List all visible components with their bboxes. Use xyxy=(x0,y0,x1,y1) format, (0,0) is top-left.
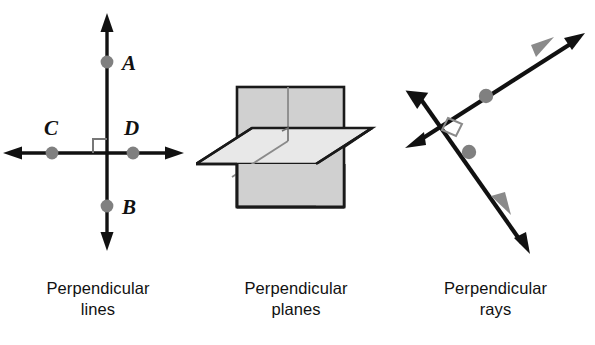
caption-rays-line1: Perpendicular xyxy=(396,278,595,299)
point-d-label: D xyxy=(123,116,139,140)
horizontal-line-arrow-left-icon xyxy=(3,147,22,160)
steep-line-group xyxy=(406,81,530,254)
ray-point-lower-dot xyxy=(462,145,476,159)
ray-arrow-upper-right-icon xyxy=(531,37,554,57)
caption-perpendicular-lines: Perpendicular lines xyxy=(0,278,196,320)
caption-planes-line1: Perpendicular xyxy=(196,278,396,299)
perpendicular-planes-diagram xyxy=(196,0,396,270)
point-a-dot xyxy=(101,56,114,69)
perpendicular-rays-diagram xyxy=(396,0,595,270)
vertical-line-arrow-down-icon xyxy=(101,232,114,251)
point-b-dot xyxy=(101,200,114,213)
caption-lines-line2: lines xyxy=(0,299,196,320)
perpendicular-figures-board: A B C D Perpendicular lines xyxy=(0,0,595,345)
ray-point-upper-dot xyxy=(479,89,493,103)
point-d-dot xyxy=(127,147,140,160)
shallow-line-group xyxy=(405,33,585,148)
point-c-label: C xyxy=(44,116,59,140)
shallow-line-arrow-left-icon xyxy=(405,132,426,148)
panel-perpendicular-lines: A B C D Perpendicular lines xyxy=(0,0,196,345)
horizontal-line-arrow-right-icon xyxy=(165,147,184,160)
perpendicular-lines-diagram: A B C D xyxy=(0,0,196,270)
vertical-plane-front-lower-fill xyxy=(237,164,316,207)
caption-perpendicular-planes: Perpendicular planes xyxy=(196,278,396,320)
caption-planes-line2: planes xyxy=(196,299,396,320)
vertical-plane-front-right-fill xyxy=(316,164,344,207)
point-c-dot xyxy=(46,147,59,160)
panel-perpendicular-planes: Perpendicular planes xyxy=(196,0,396,345)
steep-line xyxy=(420,98,522,243)
point-a-label: A xyxy=(120,51,136,75)
shallow-line xyxy=(420,43,572,140)
caption-perpendicular-rays: Perpendicular rays xyxy=(396,278,595,320)
right-angle-marker xyxy=(93,139,107,153)
vertical-line-arrow-up-icon xyxy=(101,13,114,32)
caption-rays-line2: rays xyxy=(396,299,595,320)
panel-perpendicular-rays: Perpendicular rays xyxy=(396,0,595,345)
caption-lines-line1: Perpendicular xyxy=(0,278,196,299)
point-b-label: B xyxy=(121,195,136,219)
steep-line-arrow-up-icon xyxy=(406,81,433,109)
vertical-line-group xyxy=(101,13,114,251)
